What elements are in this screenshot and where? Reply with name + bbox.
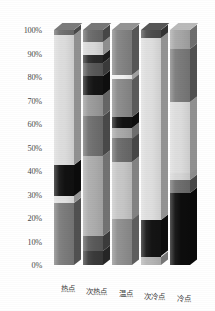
column-stack (83, 30, 103, 265)
category-label-次热点: 次热点 (86, 285, 107, 296)
column-stack (141, 30, 161, 265)
segment-front-face (54, 196, 74, 203)
segment-front-face (112, 117, 132, 128)
segment[interactable] (141, 257, 161, 265)
segment-side-face (132, 74, 139, 117)
segment[interactable] (112, 128, 132, 139)
segment-front-face (112, 219, 132, 265)
y-axis-tick-90: 90% (28, 49, 42, 58)
segment[interactable] (83, 236, 103, 251)
segment-front-face (112, 75, 132, 80)
segment[interactable] (141, 220, 161, 256)
column-stack (112, 30, 132, 265)
column-温点[interactable] (112, 30, 132, 265)
segment-front-face (83, 236, 103, 251)
segment-front-face (112, 79, 132, 117)
column-次冷点[interactable] (141, 30, 161, 265)
segment-front-face (83, 55, 103, 63)
y-axis: 0%10%20%30%40%50%60%70%80%90%100% (0, 0, 46, 311)
segment[interactable] (112, 30, 132, 75)
segment[interactable] (83, 116, 103, 156)
column-次热点[interactable] (83, 30, 103, 265)
category-label-次冷点: 次冷点 (144, 290, 165, 301)
segment-front-face (83, 116, 103, 156)
segment-side-face (190, 43, 197, 101)
segment[interactable] (83, 30, 103, 42)
stacked-column-chart: 0%10%20%30%40%50%60%70%80%90%100% 热点次热点温… (0, 0, 215, 311)
plot-area: 热点次热点温点次冷点冷点 (46, 0, 215, 311)
y-axis-tick-60: 60% (28, 120, 42, 129)
segment-side-face (74, 197, 81, 265)
segment-side-face (74, 160, 81, 196)
segment-front-face (170, 30, 190, 49)
segment[interactable] (83, 63, 103, 76)
y-axis-tick-70: 70% (28, 96, 42, 105)
segment-front-face (170, 102, 190, 174)
segment-front-face (83, 76, 103, 95)
segment-front-face (83, 251, 103, 265)
segment-front-face (83, 30, 103, 42)
segment-front-face (170, 180, 190, 193)
segment-front-face (54, 203, 74, 265)
segment-front-face (112, 128, 132, 139)
y-axis-tick-20: 20% (28, 214, 42, 223)
segment-front-face (170, 193, 190, 265)
segment-front-face (54, 35, 74, 165)
segment[interactable] (112, 75, 132, 80)
y-axis-tick-40: 40% (28, 167, 42, 176)
column-热点[interactable] (54, 30, 74, 265)
segment[interactable] (54, 203, 74, 265)
segment[interactable] (112, 162, 132, 220)
segment[interactable] (54, 165, 74, 196)
segment-side-face (190, 188, 197, 265)
segment-front-face (112, 30, 132, 75)
segment-front-face (141, 38, 161, 220)
segment[interactable] (170, 102, 190, 174)
segment-side-face (103, 110, 110, 155)
segment-side-face (132, 156, 139, 219)
segment[interactable] (112, 138, 132, 162)
segment-front-face (141, 220, 161, 256)
segment-front-face (83, 63, 103, 76)
segment[interactable] (83, 156, 103, 236)
segment[interactable] (170, 49, 190, 102)
category-label-冷点: 冷点 (177, 292, 191, 303)
segment[interactable] (83, 55, 103, 63)
segment[interactable] (112, 79, 132, 117)
category-label-温点: 温点 (119, 287, 133, 298)
segment[interactable] (170, 30, 190, 49)
segment-front-face (54, 30, 74, 35)
segment[interactable] (83, 251, 103, 265)
segment-side-face (132, 25, 139, 75)
segment-side-face (74, 29, 81, 165)
segment[interactable] (141, 38, 161, 220)
segment[interactable] (83, 42, 103, 55)
segment[interactable] (54, 35, 74, 165)
segment[interactable] (141, 30, 161, 38)
segment[interactable] (112, 117, 132, 128)
segment-side-face (161, 33, 168, 221)
segment[interactable] (170, 180, 190, 193)
y-axis-tick-30: 30% (28, 190, 42, 199)
y-axis-tick-50: 50% (28, 143, 42, 152)
segment[interactable] (54, 30, 74, 35)
segment-front-face (112, 138, 132, 162)
segment[interactable] (170, 173, 190, 180)
segment[interactable] (170, 193, 190, 265)
segment[interactable] (83, 95, 103, 116)
segment-front-face (83, 156, 103, 236)
segment-front-face (83, 95, 103, 116)
segment-side-face (132, 214, 139, 265)
segment-front-face (141, 30, 161, 38)
column-冷点[interactable] (170, 30, 190, 265)
category-label-热点: 热点 (61, 282, 75, 293)
y-axis-tick-0: 0% (31, 261, 42, 270)
segment-side-face (190, 96, 197, 173)
segment-front-face (170, 173, 190, 180)
segment[interactable] (83, 76, 103, 95)
segment[interactable] (112, 219, 132, 265)
segment-side-face (161, 215, 168, 257)
column-stack (170, 30, 190, 265)
segment-front-face (141, 257, 161, 265)
segment[interactable] (54, 196, 74, 203)
